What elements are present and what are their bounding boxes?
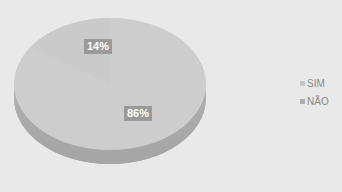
data-label-nao: 86% [124, 106, 152, 121]
legend: SIM NÃO [300, 74, 329, 110]
data-label-sim: 14% [84, 39, 112, 54]
legend-swatch-icon [300, 81, 305, 86]
legend-item-nao: NÃO [300, 92, 329, 110]
legend-label: NÃO [307, 96, 329, 107]
legend-label: SIM [307, 78, 325, 89]
legend-swatch-icon [300, 99, 305, 104]
pie-chart [0, 0, 342, 192]
legend-item-sim: SIM [300, 74, 329, 92]
